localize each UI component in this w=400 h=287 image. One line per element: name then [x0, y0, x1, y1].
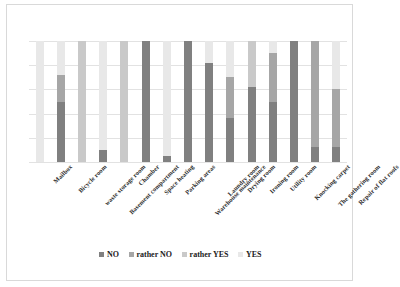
bar-column[interactable] [29, 41, 50, 162]
bar-segment[interactable] [332, 147, 340, 162]
bar-stack[interactable] [248, 41, 256, 162]
category-label: Warehouse maintenance [213, 163, 267, 217]
legend-item[interactable]: YES [238, 250, 261, 259]
legend-item[interactable]: NO [99, 250, 119, 259]
legend-item[interactable]: rather YES [182, 250, 228, 259]
bar-column[interactable] [262, 41, 283, 162]
bar-stack[interactable] [120, 41, 128, 162]
legend-label: rather YES [190, 250, 229, 259]
bar-stack[interactable] [311, 41, 319, 162]
bar-column[interactable] [135, 41, 156, 162]
bar-segment[interactable] [226, 77, 234, 118]
legend-swatch-icon [182, 252, 187, 257]
bar-stack[interactable] [226, 41, 234, 162]
bar-segment[interactable] [163, 41, 171, 156]
bar-segment[interactable] [99, 150, 107, 162]
bar-segment[interactable] [290, 41, 298, 162]
bar-column[interactable] [156, 41, 177, 162]
category-axis-labels: MailboxBicycle roomwaste storage roomBas… [29, 163, 347, 245]
bar-stack[interactable] [205, 41, 213, 162]
plot-area [29, 41, 347, 162]
bar-segment[interactable] [120, 41, 128, 162]
bar-column[interactable] [114, 41, 135, 162]
bar-column[interactable] [305, 41, 326, 162]
bar-segment[interactable] [184, 41, 192, 162]
bar-segment[interactable] [248, 87, 256, 162]
bar-stack[interactable] [290, 41, 298, 162]
bar-segment[interactable] [36, 41, 44, 162]
legend-swatch-icon [238, 252, 243, 257]
bar-column[interactable] [199, 41, 220, 162]
bar-column[interactable] [220, 41, 241, 162]
bar-segment[interactable] [78, 41, 86, 162]
chart-legend: NOrather NOrather YESYES [7, 250, 354, 259]
legend-item[interactable]: rather NO [129, 250, 172, 259]
bar-stack[interactable] [78, 41, 86, 162]
bar-segment[interactable] [248, 41, 256, 87]
bar-segment[interactable] [269, 53, 277, 101]
chart-frame: MailboxBicycle roomwaste storage roomBas… [6, 4, 353, 281]
legend-swatch-icon [129, 252, 134, 257]
bar-segment[interactable] [163, 156, 171, 162]
bar-segment[interactable] [205, 41, 213, 63]
bar-segment[interactable] [99, 41, 107, 150]
bar-column[interactable] [93, 41, 114, 162]
category-label: Mailbox [51, 163, 73, 185]
bar-segment[interactable] [205, 63, 213, 162]
bar-segment[interactable] [226, 118, 234, 162]
bar-segment[interactable] [332, 89, 340, 147]
bar-segment[interactable] [226, 41, 234, 77]
bar-segment[interactable] [311, 147, 319, 162]
bar-segment[interactable] [269, 102, 277, 163]
legend-label: rather NO [136, 250, 172, 259]
bar-stack[interactable] [99, 41, 107, 162]
bar-stack[interactable] [57, 41, 65, 162]
bar-column[interactable] [50, 41, 71, 162]
bar-stack[interactable] [163, 41, 171, 162]
bar-segment[interactable] [57, 102, 65, 163]
bar-segment[interactable] [57, 41, 65, 75]
bar-stack[interactable] [36, 41, 44, 162]
bar-column[interactable] [326, 41, 347, 162]
bar-column[interactable] [241, 41, 262, 162]
legend-swatch-icon [99, 252, 104, 257]
bar-series-container [29, 41, 347, 162]
bar-segment[interactable] [142, 41, 150, 162]
category-label: Bicycle room [77, 163, 108, 194]
bar-column[interactable] [177, 41, 198, 162]
bar-stack[interactable] [269, 41, 277, 162]
bar-stack[interactable] [332, 41, 340, 162]
bar-stack[interactable] [184, 41, 192, 162]
bar-segment[interactable] [57, 75, 65, 102]
bar-segment[interactable] [311, 41, 319, 147]
bar-column[interactable] [71, 41, 92, 162]
bar-segment[interactable] [269, 41, 277, 53]
legend-label: NO [107, 250, 119, 259]
bar-segment[interactable] [332, 41, 340, 89]
bar-column[interactable] [283, 41, 304, 162]
bar-stack[interactable] [142, 41, 150, 162]
legend-label: YES [246, 250, 262, 259]
